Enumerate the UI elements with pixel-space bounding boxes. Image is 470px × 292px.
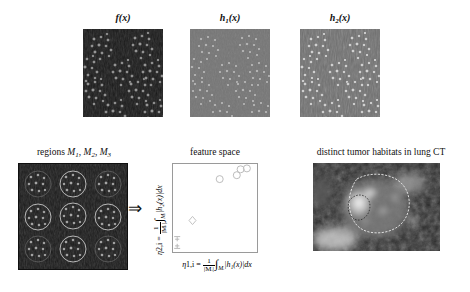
regions-m1: M bbox=[67, 147, 75, 157]
regions-title: regions M1, M2, M3 bbox=[8, 147, 140, 159]
feature-space-plot[interactable] bbox=[172, 163, 258, 253]
y-frac-den: |Mᵢ| bbox=[161, 222, 168, 234]
x-integrand: |h₁(x)|dx bbox=[224, 260, 252, 269]
y-fraction: 1|Mᵢ| bbox=[153, 222, 168, 234]
image-lung-ct-habitats bbox=[313, 163, 440, 251]
panel-title-h2-of-x: h2(x) bbox=[300, 12, 380, 25]
ct-panel-title: distinct tumor habitats in lung CT bbox=[293, 147, 469, 157]
image-f-of-x bbox=[83, 29, 163, 117]
x-equals: = bbox=[196, 260, 201, 269]
regions-m3-sub: 3 bbox=[108, 151, 112, 159]
y-integral: ∫ bbox=[152, 219, 166, 222]
y-eta-sub: 2,i bbox=[155, 243, 164, 251]
regions-title-prefix: regions bbox=[37, 147, 67, 157]
x-frac-den: |Mᵢ| bbox=[203, 266, 215, 273]
image-h1-of-x bbox=[190, 29, 270, 117]
y-integral-sub: Mᵢ bbox=[160, 213, 166, 219]
image-regions-segmentation bbox=[18, 163, 128, 270]
x-fraction: 1|Mᵢ| bbox=[203, 258, 215, 273]
feature-space-title: feature space bbox=[170, 147, 260, 157]
regions-m3: M bbox=[100, 147, 108, 157]
series-m2-diamond bbox=[189, 216, 196, 224]
series-m3-circles bbox=[216, 165, 250, 183]
figure-root: f(x) bbox=[0, 0, 470, 292]
series-m1-plus bbox=[174, 237, 180, 249]
panel-title-h1-arg: (x) bbox=[229, 12, 241, 23]
implies-arrow: ⇒ bbox=[128, 200, 142, 217]
y-integrand: |h₂(x)|dx bbox=[155, 185, 164, 213]
y-equals: = bbox=[155, 236, 164, 241]
panel-title-h2-arg: (x) bbox=[339, 12, 351, 23]
panel-title-f-arg: (x) bbox=[119, 12, 131, 23]
panel-title-f-of-x: f(x) bbox=[83, 12, 163, 25]
y-eta: η bbox=[155, 251, 164, 255]
panel-title-h1-of-x: h1(x) bbox=[190, 12, 270, 25]
feature-space-x-axis-label: η1,i = 1|Mᵢ|∫Mᵢ|h₁(x)|dx bbox=[158, 257, 276, 273]
image-h2-of-x bbox=[300, 29, 380, 117]
x-eta-sub: 1,i bbox=[186, 260, 194, 269]
feature-space-y-axis-label: η2,i = 1|Mᵢ|∫Mᵢ|h₂(x)|dx bbox=[152, 145, 168, 255]
